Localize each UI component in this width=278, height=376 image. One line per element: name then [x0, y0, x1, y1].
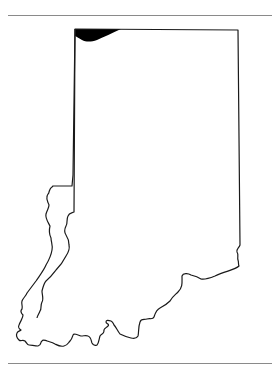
bottom-rule [8, 363, 272, 364]
indiana-map [0, 0, 278, 376]
state-outline-west [37, 29, 75, 318]
lake-michigan-fill [75, 29, 121, 42]
state-outline [17, 29, 240, 346]
